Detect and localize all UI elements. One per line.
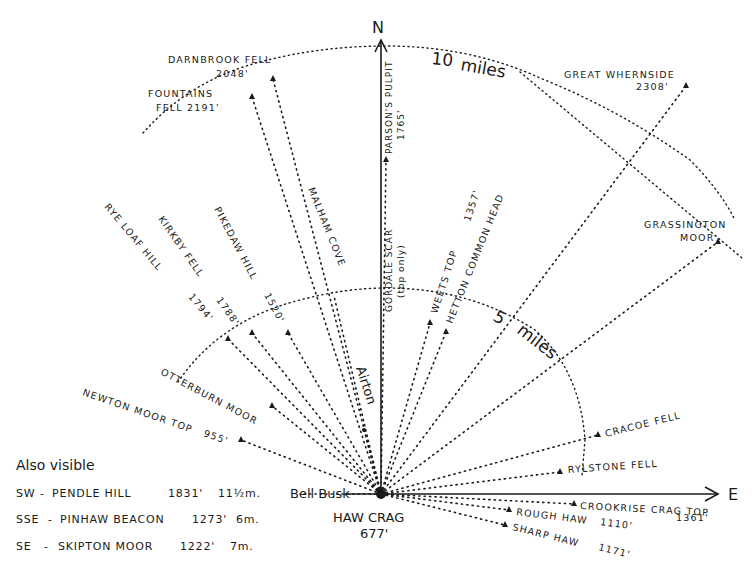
also-visible-height-2: 1273' bbox=[192, 513, 227, 526]
ring-5-label: 5 bbox=[490, 306, 509, 329]
dash: - bbox=[44, 540, 49, 553]
peak-icon-newton bbox=[238, 436, 244, 442]
dash: - bbox=[48, 513, 53, 526]
also-visible-distance-2: 6m. bbox=[236, 513, 260, 526]
peak-height-kirkby: 1788' bbox=[214, 295, 242, 328]
peak-icon-cracoe bbox=[595, 431, 601, 437]
peak-label-gordale: GORDALE SCAR bbox=[384, 229, 394, 312]
also-visible-heading: Also visible bbox=[16, 457, 95, 473]
east-label: E bbox=[728, 485, 738, 504]
north-label: N bbox=[372, 18, 384, 37]
also-visible-bearing-2: SSE bbox=[16, 513, 39, 526]
peak-label-sharp-haw: SHARP HAW bbox=[512, 521, 581, 548]
also-visible-height-3: 1222' bbox=[180, 540, 215, 553]
also-visible-name-3: SKIPTON MOOR bbox=[58, 540, 153, 553]
peak-label-fountains: FOUNTAINS bbox=[148, 88, 213, 99]
peak-label-rylstone: RYLSTONE FELL bbox=[567, 458, 658, 475]
peak-icon-rough-haw bbox=[506, 506, 512, 512]
peak-icon-hetton bbox=[443, 328, 449, 334]
peak-height-parsons: 1765' bbox=[396, 110, 406, 140]
peak-label-malham: MALHAM COVE bbox=[306, 186, 348, 268]
peak-height-pikedaw: 1520' bbox=[262, 291, 287, 325]
peak-icon-pikedaw bbox=[285, 329, 291, 335]
panorama-diagram: N E 10 miles 5 miles HAW CRAG 677' Bell … bbox=[0, 0, 754, 572]
peak-icon-weets bbox=[427, 319, 433, 325]
dash: - bbox=[40, 487, 45, 500]
ring-5-unit: miles bbox=[514, 319, 562, 363]
peak-icon-rylstone bbox=[557, 468, 563, 474]
also-visible-bearing-1: SW bbox=[16, 487, 35, 500]
ring-10-miles-east bbox=[520, 72, 742, 258]
peak-height-crookrise: 1361' bbox=[676, 512, 709, 523]
peak-height-rye-loaf: 1794' bbox=[186, 291, 216, 323]
also-visible-name-2: PINHAW BEACON bbox=[60, 513, 164, 526]
peak-note-gordale: (top only) bbox=[396, 244, 406, 298]
peak-label-pikedaw: PIKEDAW HILL bbox=[212, 205, 260, 282]
also-visible-distance-3: 7m. bbox=[230, 540, 254, 553]
peak-height-weets: 1357' bbox=[461, 188, 482, 223]
peak-label-grassington-2: MOOR bbox=[680, 232, 715, 243]
peak-label-great-whernside: GREAT WHERNSIDE bbox=[564, 69, 675, 80]
peak-label-kirkby: KIRKBY FELL bbox=[156, 214, 206, 279]
also-visible-height-1: 1831' bbox=[168, 487, 203, 500]
peak-height-great-whernside: 2308' bbox=[636, 81, 669, 92]
peak-icon-fountains bbox=[249, 93, 255, 99]
peak-label-newton: NEWTON MOOR TOP bbox=[81, 386, 194, 434]
bell-busk-label: Bell Busk bbox=[290, 486, 350, 501]
peak-icon-rye-loaf bbox=[225, 335, 231, 341]
peak-label-fountains-2: FELL 2191' bbox=[156, 102, 220, 113]
peak-label-rye-loaf: RYE LOAF HILL bbox=[102, 201, 165, 273]
peak-height-sharp-haw: 1171' bbox=[598, 541, 632, 560]
origin-height: 677' bbox=[360, 526, 388, 541]
peak-label-rough-haw: ROUGH HAW bbox=[516, 506, 589, 526]
also-visible-name-1: PENDLE HILL bbox=[52, 487, 132, 500]
peak-icon-darnbrook bbox=[270, 75, 276, 81]
origin-name: HAW CRAG bbox=[333, 510, 404, 525]
also-visible-panel: Also visible SW - PENDLE HILL 1831' 11½m… bbox=[16, 457, 261, 553]
peak-label-grassington: GRASSINGTON bbox=[644, 219, 727, 230]
peak-icon-kirkby bbox=[249, 329, 255, 335]
peak-label-parsons: PARSON'S PULPIT bbox=[384, 61, 394, 154]
peak-icon-crookrise bbox=[571, 500, 577, 506]
ring-10-unit: miles bbox=[459, 54, 507, 82]
peak-label-cracoe: CRACOE FELL bbox=[604, 409, 682, 438]
ring-10-label: 10 bbox=[431, 48, 455, 70]
peak-icon-great-whernside bbox=[683, 82, 689, 88]
airton-point bbox=[362, 428, 366, 432]
peak-icon-otterburn bbox=[269, 402, 275, 408]
peak-label-darnbrook: DARNBROOK FELL bbox=[168, 54, 272, 65]
haw-crag-point bbox=[376, 489, 386, 499]
peak-height-newton: 955' bbox=[202, 427, 230, 446]
peak-height-rough-haw: 1110' bbox=[600, 516, 634, 531]
also-visible-bearing-3: SE bbox=[16, 540, 32, 553]
peak-icon-parsons bbox=[383, 156, 389, 162]
also-visible-distance-1: 11½m. bbox=[218, 487, 261, 500]
peak-height-darnbrook: 2048' bbox=[216, 68, 249, 79]
